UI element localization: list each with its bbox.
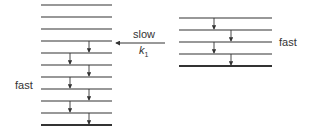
rate-constant-subscript: 1 bbox=[145, 51, 149, 58]
left-energy-ladder bbox=[41, 5, 112, 125]
energy-level-diagram bbox=[0, 0, 311, 139]
fast-label-right: fast bbox=[279, 36, 297, 48]
right-energy-ladder bbox=[179, 18, 272, 66]
fast-label-left: fast bbox=[15, 79, 33, 91]
rate-constant-label: k1 bbox=[139, 44, 148, 58]
slow-label: slow bbox=[133, 28, 155, 40]
